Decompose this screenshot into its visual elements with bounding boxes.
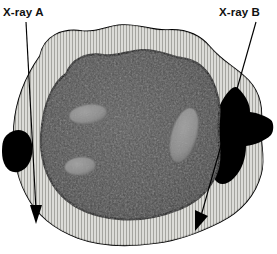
bone-cross-section-diagram bbox=[0, 0, 277, 254]
label-xray-b: X-ray B bbox=[219, 7, 260, 19]
label-xray-a: X-ray A bbox=[3, 7, 44, 19]
xray-cross-section-figure: X-ray A X-ray B bbox=[0, 0, 277, 254]
